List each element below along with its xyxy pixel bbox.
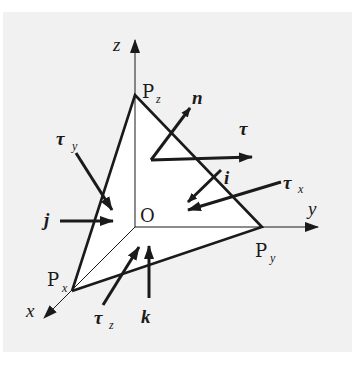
j-vector-label: j bbox=[41, 209, 50, 230]
i-vector-label: i bbox=[224, 167, 230, 188]
n-vector-label: n bbox=[192, 87, 203, 108]
y-axis-label: y bbox=[306, 198, 317, 219]
tau-x-subscript: x bbox=[297, 182, 304, 196]
tau-y-vector-label: τ bbox=[56, 128, 65, 149]
pz-label: P bbox=[142, 81, 154, 102]
tau-x-vector-label: τ bbox=[283, 172, 292, 193]
tau-z-vector-label: τ bbox=[94, 307, 103, 328]
tetrahedron-diagram: z y x O P z P y P x n τ i τ x τ y j τ z … bbox=[0, 0, 356, 367]
origin-label: O bbox=[140, 205, 155, 226]
px-label: P bbox=[47, 269, 59, 290]
tau-z-subscript: z bbox=[108, 318, 114, 332]
py-subscript: y bbox=[269, 251, 276, 265]
tau-y-subscript: y bbox=[71, 139, 78, 153]
px-subscript: x bbox=[61, 281, 68, 295]
k-vector-label: k bbox=[141, 306, 151, 327]
pz-subscript: z bbox=[155, 92, 161, 106]
x-axis-label: x bbox=[25, 300, 35, 321]
tau-vector-label: τ bbox=[239, 118, 248, 139]
py-label: P bbox=[255, 240, 267, 261]
z-axis-label: z bbox=[112, 34, 121, 55]
